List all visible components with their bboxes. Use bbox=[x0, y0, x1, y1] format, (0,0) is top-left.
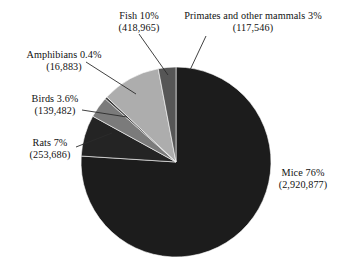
slice-label-amphibians-line2: (16,883) bbox=[6, 61, 122, 73]
slice-label-amphibians-line1: Amphibians 0.4% bbox=[6, 49, 122, 61]
slice-label-amphibians: Amphibians 0.4% (16,883) bbox=[6, 49, 122, 74]
slice-label-mice: Mice 76% (2,920,877) bbox=[268, 167, 338, 192]
pie-chart: Fish 10% (418,965) Primates and other ma… bbox=[0, 0, 338, 274]
slice-label-mice-line2: (2,920,877) bbox=[268, 179, 338, 191]
slice-label-rats: Rats 7% (253,686) bbox=[4, 137, 96, 162]
slice-label-fish-line1: Fish 10% bbox=[106, 10, 172, 22]
slice-label-rats-line2: (253,686) bbox=[4, 149, 96, 161]
slice-label-birds: Birds 3.6% (139,482) bbox=[6, 93, 104, 118]
leader-line-primates bbox=[190, 36, 206, 70]
slice-label-birds-line1: Birds 3.6% bbox=[6, 93, 104, 105]
leader-line-fish bbox=[139, 34, 168, 75]
pie-wedge-group bbox=[81, 67, 271, 257]
slice-label-birds-line2: (139,482) bbox=[6, 105, 104, 117]
slice-label-fish-line2: (418,965) bbox=[106, 22, 172, 34]
slice-label-rats-line1: Rats 7% bbox=[4, 137, 96, 149]
slice-label-primates-line1: Primates and other mammals 3% bbox=[172, 10, 334, 22]
slice-label-fish: Fish 10% (418,965) bbox=[106, 10, 172, 35]
slice-label-primates: Primates and other mammals 3% (117,546) bbox=[172, 10, 334, 35]
slice-label-primates-line2: (117,546) bbox=[172, 22, 334, 34]
slice-label-mice-line1: Mice 76% bbox=[268, 167, 338, 179]
